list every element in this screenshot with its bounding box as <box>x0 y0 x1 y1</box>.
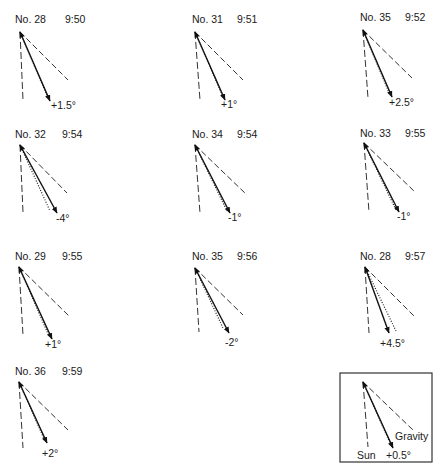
dance-arrow-icon <box>19 382 47 443</box>
gravity-direction-line <box>365 267 415 317</box>
panel-9: No. 28 9:57 +4.5° <box>360 250 426 349</box>
panel-5: No. 34 9:54 -1° <box>192 128 258 223</box>
dance-direction-diagram: No. 28 9:50 +1.5° No. 31 9:51 +1° No. 35… <box>0 0 443 468</box>
panel-time: 9:55 <box>62 250 83 262</box>
panel-time: 9:54 <box>62 128 83 140</box>
dance-arrow-icon <box>195 268 229 333</box>
panel-number: No. 34 <box>192 128 223 140</box>
gravity-direction-line <box>195 32 243 80</box>
sun-direction-line <box>195 268 199 332</box>
sun-direction-line <box>20 145 23 212</box>
gravity-direction-line <box>19 267 69 316</box>
panel-4: No. 32 9:54 -4° <box>15 128 83 224</box>
sun-label: Sun <box>357 449 376 461</box>
dance-arrow-icon <box>19 267 52 339</box>
panel-7: No. 29 9:55 +1° <box>15 250 83 350</box>
panel-number: No. 35 <box>360 11 391 23</box>
panel-time: 9:56 <box>237 250 258 262</box>
panel-time: 9:55 <box>405 127 426 139</box>
panel-time: 9:57 <box>405 250 426 262</box>
deviation-label: -2° <box>225 336 239 348</box>
dance-dotted-line <box>20 145 50 211</box>
panel-number: No. 35 <box>192 250 223 262</box>
panel-number: No. 31 <box>192 13 223 25</box>
deviation-label: +1° <box>221 98 237 110</box>
deviation-label: +0.5° <box>386 449 411 461</box>
deviation-label: +1° <box>45 338 61 350</box>
panel-8: No. 35 9:56 -2° <box>192 250 258 348</box>
deviation-label: -4° <box>56 212 70 224</box>
dance-arrow-icon <box>20 145 57 213</box>
gravity-direction-line <box>195 268 243 315</box>
dance-arrow-icon <box>195 32 225 100</box>
gravity-direction-line <box>363 382 413 430</box>
panel-1: No. 28 9:50 +1.5° <box>15 13 86 111</box>
dance-arrow-icon <box>20 32 50 101</box>
panel-number: No. 36 <box>15 365 46 377</box>
dance-arrow-icon <box>364 143 399 212</box>
legend-box: Gravity Sun +0.5° <box>340 373 432 462</box>
dance-dotted-line <box>365 267 396 331</box>
deviation-label: +2.5° <box>389 96 414 108</box>
sun-direction-line <box>195 145 200 213</box>
panel-time: 9:50 <box>65 13 86 25</box>
panel-number: No. 28 <box>15 13 46 25</box>
panel-6: No. 33 9:55 -1° <box>360 127 426 222</box>
deviation-label: +4.5° <box>380 337 405 349</box>
panel-3: No. 35 9:52 +2.5° <box>360 11 426 108</box>
sun-direction-line <box>20 32 23 100</box>
deviation-label: -1° <box>228 211 242 223</box>
sun-direction-line <box>364 143 369 212</box>
panel-time: 9:51 <box>237 13 258 25</box>
dance-arrow-icon <box>363 30 392 97</box>
panel-time: 9:52 <box>405 11 426 23</box>
deviation-label: +1.5° <box>51 99 76 111</box>
dance-arrow-icon <box>195 145 230 213</box>
panel-number: No. 29 <box>15 250 46 262</box>
sun-direction-line <box>19 382 23 448</box>
gravity-direction-line <box>363 30 412 78</box>
gravity-direction-line <box>364 143 415 192</box>
panel-time: 9:54 <box>237 128 258 140</box>
gravity-direction-line <box>20 145 67 193</box>
gravity-label: Gravity <box>395 430 429 442</box>
sun-direction-line <box>19 267 23 335</box>
deviation-label: +2° <box>42 447 58 459</box>
gravity-direction-line <box>19 382 68 430</box>
gravity-direction-line <box>20 32 68 80</box>
gravity-direction-line <box>195 145 247 195</box>
panel-10: No. 36 9:59 +2° <box>15 365 83 459</box>
panel-time: 9:59 <box>62 365 83 377</box>
deviation-label: -1° <box>397 210 411 222</box>
panel-2: No. 31 9:51 +1° <box>192 13 258 110</box>
panel-number: No. 32 <box>15 128 46 140</box>
panel-number: No. 28 <box>360 250 391 262</box>
panel-number: No. 33 <box>360 127 391 139</box>
